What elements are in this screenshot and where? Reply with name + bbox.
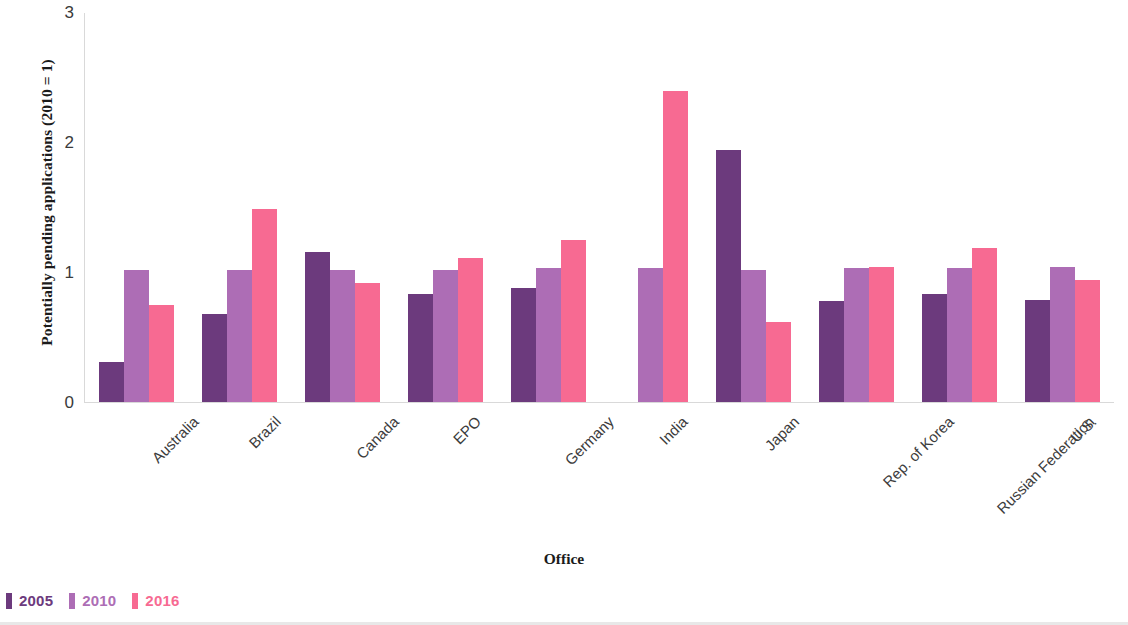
bar-2005[interactable] [202,314,227,402]
bar-2010[interactable] [844,268,869,402]
bar-2010[interactable] [741,270,766,402]
bar-2016[interactable] [663,91,688,402]
x-tick-label-text: Japan [761,413,802,454]
bar-2016[interactable] [561,240,586,402]
x-tick-label-text: EPO [449,413,483,447]
legend-swatch-icon [132,593,138,609]
bar-2016[interactable] [766,322,791,402]
x-tick-slot: Brazil [188,404,291,524]
bar-group [600,13,703,402]
y-tick-label: 1 [65,263,74,283]
bar-2010[interactable] [227,270,252,402]
y-tick-label: 2 [65,133,74,153]
bar-group [497,13,600,402]
bar-2010[interactable] [638,268,663,402]
x-tick-slot: Germany [497,404,600,524]
bar-group [805,13,908,402]
bar-2005[interactable] [408,294,433,402]
x-axis-title: Office [0,550,1128,568]
bar-2005[interactable] [511,288,536,402]
bar-2010[interactable] [947,268,972,402]
legend-swatch-icon [69,593,75,609]
legend-label: 2016 [145,592,179,609]
legend-item[interactable]: 2005 [6,592,53,609]
bar-group [188,13,291,402]
bar-2010[interactable] [433,270,458,402]
x-tick-label-text: Brazil [245,413,284,452]
x-tick-label: Japan [766,410,807,451]
bar-2005[interactable] [1025,300,1050,402]
bar-groups [85,13,1114,402]
x-tick-slot: EPO [394,404,497,524]
x-tick-label: EPO [455,410,489,444]
bar-2005[interactable] [99,362,124,402]
x-tick-slot: U.S. [1012,404,1115,524]
legend-item[interactable]: 2016 [132,592,179,609]
x-axis-tick-labels: AustraliaBrazilCanadaEPOGermanyIndiaJapa… [85,404,1115,524]
x-tick-label: Brazil [250,410,289,449]
bar-2016[interactable] [252,209,277,402]
bar-2016[interactable] [355,283,380,402]
x-tick-slot: Russian Federation [909,404,1012,524]
y-axis-title: Potentially pending applications (2010 =… [30,0,64,405]
bar-2010[interactable] [330,270,355,402]
bar-2016[interactable] [972,248,997,402]
bar-2010[interactable] [124,270,149,402]
bar-group [1011,13,1114,402]
bar-2010[interactable] [536,268,561,402]
x-tick-slot: India [600,404,703,524]
bar-2005[interactable] [305,252,330,402]
x-tick-slot: Canada [291,404,394,524]
x-tick-slot: Australia [85,404,188,524]
x-axis-line [84,402,1114,403]
x-tick-label: U.S. [1072,410,1105,443]
bar-group [291,13,394,402]
plot-area: 0123 [84,13,1114,403]
legend-label: 2010 [82,592,116,609]
bar-group [702,13,805,402]
x-tick-slot: Rep. of Korea [806,404,909,524]
bar-2016[interactable] [149,305,174,402]
x-tick-label: India [661,410,696,445]
x-tick-label-text: U.S. [1066,413,1099,446]
x-tick-label-text: India [655,413,690,448]
y-tick-label: 3 [65,3,74,23]
bar-2010[interactable] [1050,267,1075,402]
legend-item[interactable]: 2010 [69,592,116,609]
bar-2016[interactable] [1075,280,1100,402]
y-tick-label: 0 [65,393,74,413]
chart-legend: 200520102016 [6,592,180,609]
bar-2005[interactable] [819,301,844,402]
bar-2016[interactable] [869,267,894,402]
bar-2016[interactable] [458,258,483,402]
bar-2005[interactable] [922,294,947,402]
bar-2005[interactable] [716,150,741,402]
bar-group [908,13,1011,402]
legend-label: 2005 [19,592,53,609]
bar-group [85,13,188,402]
legend-swatch-icon [6,593,12,609]
bar-group [394,13,497,402]
x-tick-slot: Japan [703,404,806,524]
